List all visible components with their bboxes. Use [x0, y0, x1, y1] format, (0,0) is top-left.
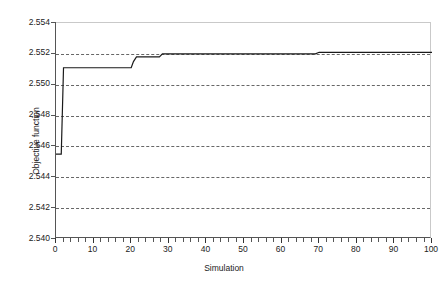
y-tick-mark: [51, 84, 56, 85]
x-tick-minor: [296, 238, 297, 242]
x-tick-minor: [123, 238, 124, 242]
x-tick-minor: [371, 238, 372, 242]
y-tick-label: 2.554: [10, 18, 50, 27]
x-tick-label: 50: [228, 245, 258, 254]
x-tick-minor: [190, 238, 191, 242]
x-tick-minor: [228, 238, 229, 242]
x-tick-major: [393, 238, 394, 243]
x-tick-minor: [408, 238, 409, 242]
x-tick-major: [93, 238, 94, 243]
y-tick-label: 2.542: [10, 203, 50, 212]
x-tick-major: [130, 238, 131, 243]
y-tick-mark: [51, 22, 56, 23]
x-tick-minor: [108, 238, 109, 242]
x-tick-label: 10: [78, 245, 108, 254]
y-tick-label: 2.552: [10, 48, 50, 57]
x-tick-minor: [341, 238, 342, 242]
x-tick-major: [431, 238, 432, 243]
x-tick-label: 0: [40, 245, 70, 254]
x-tick-minor: [220, 238, 221, 242]
x-tick-minor: [386, 238, 387, 242]
x-tick-minor: [401, 238, 402, 242]
x-tick-minor: [311, 238, 312, 242]
x-tick-minor: [266, 238, 267, 242]
x-tick-label: 80: [341, 245, 371, 254]
x-tick-minor: [160, 238, 161, 242]
y-tick-label: 2.546: [10, 141, 50, 150]
y-tick-label: 2.550: [10, 79, 50, 88]
y-tick-mark: [51, 176, 56, 177]
x-tick-minor: [251, 238, 252, 242]
x-tick-minor: [70, 238, 71, 242]
x-tick-major: [243, 238, 244, 243]
x-tick-minor: [333, 238, 334, 242]
x-tick-minor: [258, 238, 259, 242]
x-tick-minor: [85, 238, 86, 242]
plot-area: [55, 22, 431, 238]
x-tick-minor: [424, 238, 425, 242]
x-tick-minor: [303, 238, 304, 242]
x-tick-major: [281, 238, 282, 243]
x-tick-minor: [63, 238, 64, 242]
x-tick-label: 90: [378, 245, 408, 254]
x-tick-minor: [236, 238, 237, 242]
x-tick-minor: [273, 238, 274, 242]
y-tick-mark: [51, 115, 56, 116]
chart-figure: Objective function 2.5402.5422.5442.5462…: [0, 0, 448, 281]
x-tick-label: 60: [266, 245, 296, 254]
x-tick-minor: [115, 238, 116, 242]
x-tick-label: 100: [416, 245, 446, 254]
x-tick-label: 30: [153, 245, 183, 254]
y-tick-label: 2.548: [10, 110, 50, 119]
x-tick-minor: [363, 238, 364, 242]
x-tick-major: [356, 238, 357, 243]
x-tick-major: [318, 238, 319, 243]
x-tick-minor: [153, 238, 154, 242]
y-tick-mark: [51, 53, 56, 54]
y-tick-label: 2.544: [10, 172, 50, 181]
x-tick-minor: [183, 238, 184, 242]
x-tick-major: [55, 238, 56, 243]
x-tick-label: 20: [115, 245, 145, 254]
x-tick-minor: [348, 238, 349, 242]
x-tick-minor: [138, 238, 139, 242]
y-tick-mark: [51, 207, 56, 208]
x-tick-minor: [145, 238, 146, 242]
x-tick-major: [205, 238, 206, 243]
x-tick-minor: [198, 238, 199, 242]
y-tick-label: 2.540: [10, 234, 50, 243]
x-tick-minor: [213, 238, 214, 242]
x-tick-minor: [326, 238, 327, 242]
x-tick-minor: [78, 238, 79, 242]
series-line-objective-function: [56, 23, 432, 239]
x-tick-minor: [100, 238, 101, 242]
x-tick-label: 40: [190, 245, 220, 254]
x-tick-major: [168, 238, 169, 243]
x-tick-minor: [416, 238, 417, 242]
x-axis-title: Simulation: [0, 263, 448, 273]
x-tick-minor: [288, 238, 289, 242]
x-tick-minor: [378, 238, 379, 242]
y-tick-mark: [51, 145, 56, 146]
x-tick-minor: [175, 238, 176, 242]
x-tick-label: 70: [303, 245, 333, 254]
